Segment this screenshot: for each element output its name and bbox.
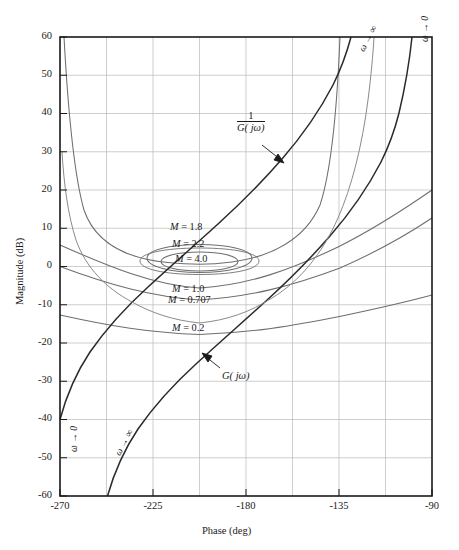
ytick--10: -10 bbox=[22, 298, 52, 309]
ytick-50: 50 bbox=[22, 68, 52, 79]
annotation-g: G( jω) bbox=[222, 370, 250, 381]
m-label-0p707: M = 0.707 bbox=[168, 294, 211, 305]
xtick--135: -135 bbox=[316, 500, 362, 511]
omega-zero-lower-label: ω → 0 bbox=[68, 426, 79, 452]
nichols-chart-figure bbox=[0, 0, 459, 550]
annotation-inverse-g-numerator: 1 bbox=[237, 110, 265, 121]
xtick--270: -270 bbox=[37, 500, 83, 511]
xtick--90: -90 bbox=[409, 500, 455, 511]
ytick--50: -50 bbox=[22, 451, 52, 462]
ytick--20: -20 bbox=[22, 336, 52, 347]
ytick--30: -30 bbox=[22, 374, 52, 385]
ytick-30: 30 bbox=[22, 145, 52, 156]
m-label-0p2: M = 0.2 bbox=[172, 322, 204, 333]
ytick-40: 40 bbox=[22, 106, 52, 117]
ytick-60: 60 bbox=[22, 30, 52, 41]
m-label-1p0: M = 1.0 bbox=[172, 283, 204, 294]
x-axis-title: Phase (deg) bbox=[202, 525, 251, 536]
m-label-1p8: M = 1.8 bbox=[170, 221, 202, 232]
omega-zero-upper-label: ω → 0 bbox=[419, 16, 430, 42]
xtick--180: -180 bbox=[223, 500, 269, 511]
y-axis-title: Magnitude (dB) bbox=[14, 238, 25, 305]
ytick--60: -60 bbox=[22, 489, 52, 500]
annotation-inverse-g: 1 G( jω) bbox=[237, 110, 265, 134]
ytick-20: 20 bbox=[22, 183, 52, 194]
xtick--225: -225 bbox=[130, 500, 176, 511]
m-label-2p2: M = 2.2 bbox=[172, 238, 204, 249]
ytick--40: -40 bbox=[22, 412, 52, 423]
m-label-4p0: M = 4.0 bbox=[175, 253, 207, 264]
ytick-0: 0 bbox=[22, 259, 52, 270]
annotation-inverse-g-denominator: G( jω) bbox=[237, 121, 265, 133]
ytick-10: 10 bbox=[22, 221, 52, 232]
